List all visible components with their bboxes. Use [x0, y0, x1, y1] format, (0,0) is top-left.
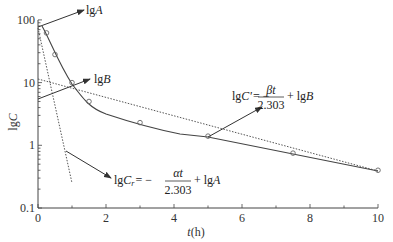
- y-tick-0.1: 0.1: [20, 201, 35, 215]
- y-minor-ticks: [38, 20, 42, 208]
- eqA-numerator: αt: [173, 166, 183, 180]
- eqA-lhs: lgCr= −: [114, 173, 152, 188]
- eqA-rhs: + lgA: [194, 173, 221, 187]
- equation-residual: lgCr= − αt 2.303 + lgA: [114, 166, 221, 197]
- x-tick-0: 0: [35, 211, 41, 225]
- arrow-lgA: [38, 10, 84, 27]
- x-tick-2: 2: [103, 211, 109, 225]
- x-tick-10: 10: [372, 211, 384, 225]
- pharmacokinetic-log-plot: 100 10 1 0.1 0 2 4 6 8 10 t(h) lgC lgA l…: [0, 0, 393, 242]
- y-tick-10: 10: [23, 76, 35, 90]
- label-lgA: lgA: [86, 3, 103, 17]
- x-tick-6: 6: [239, 211, 245, 225]
- eqB-denominator: 2.303: [258, 98, 285, 112]
- y-axis-label: lgC: [6, 112, 20, 130]
- label-lgB: lgB: [94, 72, 111, 86]
- x-axis-label: t(h): [187, 225, 204, 239]
- y-tick-1: 1: [29, 138, 35, 152]
- fitted-curve: [42, 26, 378, 171]
- data-point: [87, 99, 92, 104]
- arrow-eqA: [66, 151, 111, 178]
- terminal-phase-line: [38, 79, 378, 171]
- arrow-lgB: [38, 79, 90, 99]
- x-tick-labels: 0 2 4 6 8 10: [35, 211, 384, 225]
- eqB-rhs: + lgB: [287, 89, 314, 103]
- eqB-numerator: βt: [265, 83, 276, 97]
- x-ticks: [38, 204, 378, 208]
- equation-terminal: lgC'= − βt 2.303 + lgB: [232, 83, 314, 112]
- x-tick-4: 4: [171, 211, 177, 225]
- chart-svg: 100 10 1 0.1 0 2 4 6 8 10 t(h) lgC lgA l…: [0, 0, 393, 242]
- annotation-arrows: [38, 10, 262, 178]
- data-points: [44, 31, 380, 173]
- eqA-denominator: 2.303: [165, 183, 192, 197]
- x-tick-8: 8: [307, 211, 313, 225]
- y-tick-100: 100: [17, 13, 35, 27]
